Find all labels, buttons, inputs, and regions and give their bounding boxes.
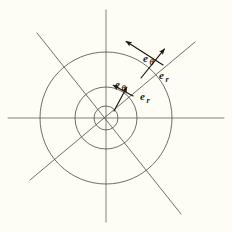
inner-e-theta-label-base: e (115, 78, 120, 90)
inner-e-theta-label-sub: θ (122, 83, 127, 93)
figure-canvas: e θ e r e θ e r (0, 0, 232, 232)
polar-unit-vector-figure: e θ e r e θ e r (0, 0, 232, 232)
figure-background (0, 0, 232, 232)
outer-e-theta-label-sub: θ (150, 57, 155, 67)
outer-e-theta-label-base: e (143, 52, 148, 64)
inner-e-r-label-base: e (140, 90, 145, 102)
outer-e-r-label-base: e (159, 69, 164, 81)
